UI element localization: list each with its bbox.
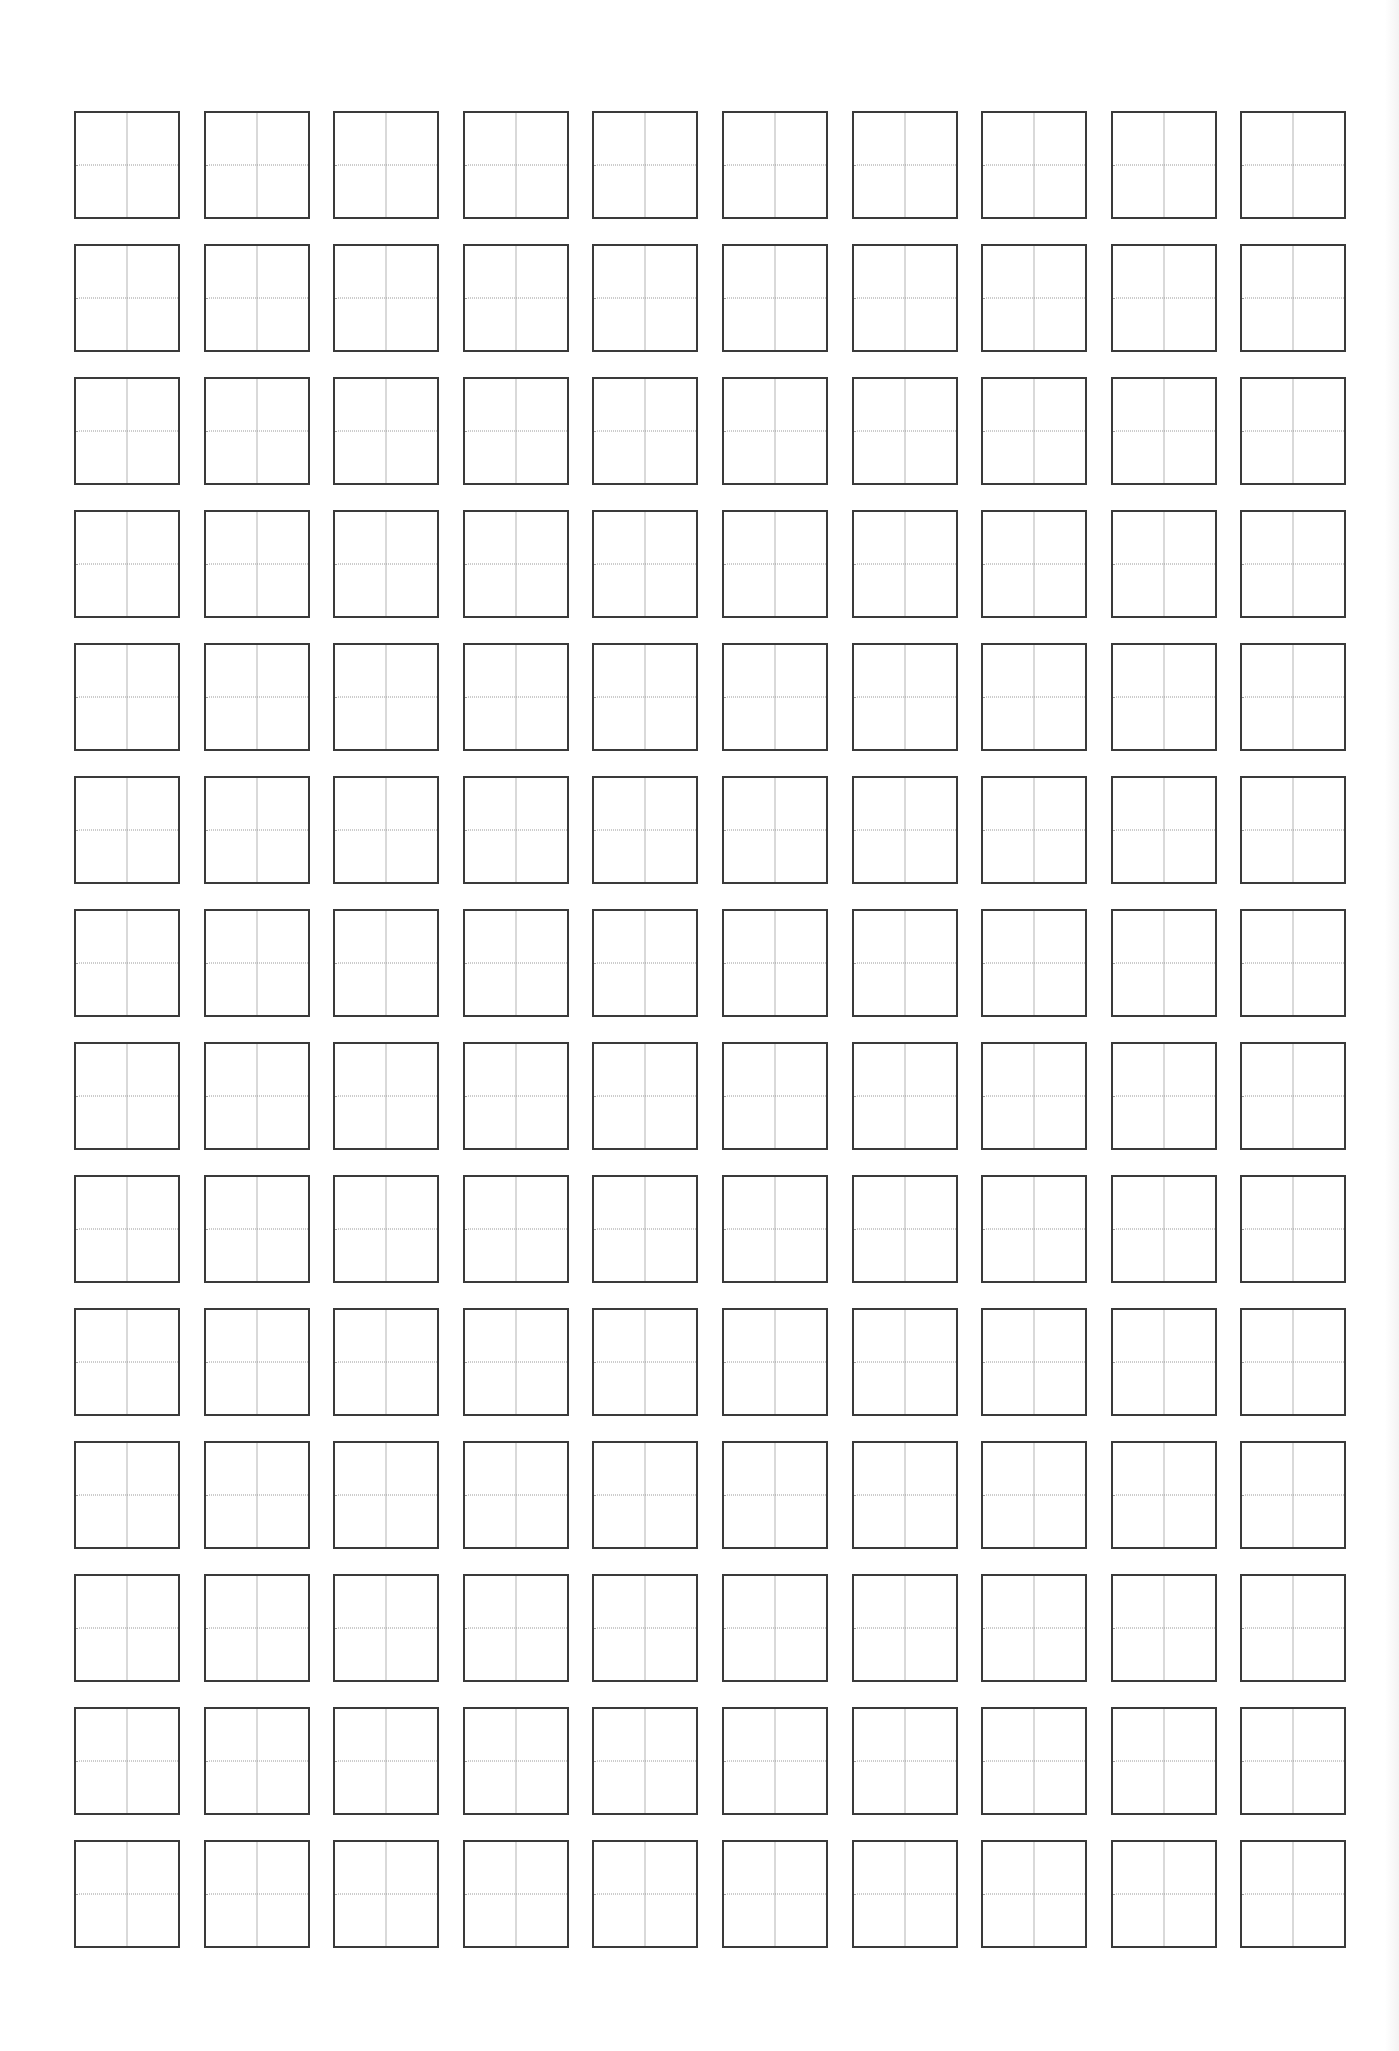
practice-cell-r1-c6[interactable] (722, 111, 828, 219)
practice-cell-r1-c4[interactable] (463, 111, 569, 219)
practice-cell-r9-c2[interactable] (204, 1175, 310, 1283)
practice-cell-r11-c2[interactable] (204, 1441, 310, 1549)
practice-cell-r10-c8[interactable] (981, 1308, 1087, 1416)
practice-cell-r5-c3[interactable] (333, 643, 439, 751)
practice-cell-r1-c1[interactable] (74, 111, 180, 219)
practice-cell-r3-c2[interactable] (204, 377, 310, 485)
practice-cell-r1-c3[interactable] (333, 111, 439, 219)
practice-cell-r14-c5[interactable] (592, 1840, 698, 1948)
practice-cell-r9-c5[interactable] (592, 1175, 698, 1283)
practice-cell-r7-c3[interactable] (333, 909, 439, 1017)
practice-cell-r2-c1[interactable] (74, 244, 180, 352)
practice-cell-r14-c10[interactable] (1240, 1840, 1346, 1948)
practice-cell-r1-c5[interactable] (592, 111, 698, 219)
practice-cell-r3-c9[interactable] (1111, 377, 1217, 485)
practice-cell-r5-c10[interactable] (1240, 643, 1346, 751)
practice-cell-r9-c1[interactable] (74, 1175, 180, 1283)
practice-cell-r13-c5[interactable] (592, 1707, 698, 1815)
practice-cell-r2-c2[interactable] (204, 244, 310, 352)
practice-cell-r4-c6[interactable] (722, 510, 828, 618)
practice-cell-r8-c4[interactable] (463, 1042, 569, 1150)
practice-cell-r8-c7[interactable] (852, 1042, 958, 1150)
practice-cell-r5-c1[interactable] (74, 643, 180, 751)
practice-cell-r8-c10[interactable] (1240, 1042, 1346, 1150)
practice-cell-r2-c8[interactable] (981, 244, 1087, 352)
practice-cell-r12-c7[interactable] (852, 1574, 958, 1682)
practice-cell-r1-c10[interactable] (1240, 111, 1346, 219)
practice-cell-r3-c5[interactable] (592, 377, 698, 485)
practice-cell-r6-c3[interactable] (333, 776, 439, 884)
practice-cell-r6-c1[interactable] (74, 776, 180, 884)
practice-cell-r11-c7[interactable] (852, 1441, 958, 1549)
practice-cell-r4-c9[interactable] (1111, 510, 1217, 618)
practice-cell-r7-c6[interactable] (722, 909, 828, 1017)
practice-cell-r2-c4[interactable] (463, 244, 569, 352)
practice-cell-r3-c4[interactable] (463, 377, 569, 485)
practice-cell-r11-c1[interactable] (74, 1441, 180, 1549)
practice-cell-r7-c9[interactable] (1111, 909, 1217, 1017)
practice-cell-r10-c3[interactable] (333, 1308, 439, 1416)
practice-cell-r11-c6[interactable] (722, 1441, 828, 1549)
practice-cell-r1-c7[interactable] (852, 111, 958, 219)
practice-cell-r10-c2[interactable] (204, 1308, 310, 1416)
practice-cell-r6-c10[interactable] (1240, 776, 1346, 884)
practice-cell-r4-c2[interactable] (204, 510, 310, 618)
practice-cell-r4-c1[interactable] (74, 510, 180, 618)
practice-cell-r12-c6[interactable] (722, 1574, 828, 1682)
practice-cell-r8-c9[interactable] (1111, 1042, 1217, 1150)
practice-cell-r7-c10[interactable] (1240, 909, 1346, 1017)
practice-cell-r11-c5[interactable] (592, 1441, 698, 1549)
practice-cell-r3-c6[interactable] (722, 377, 828, 485)
practice-cell-r9-c8[interactable] (981, 1175, 1087, 1283)
practice-cell-r10-c5[interactable] (592, 1308, 698, 1416)
practice-cell-r10-c9[interactable] (1111, 1308, 1217, 1416)
practice-cell-r9-c10[interactable] (1240, 1175, 1346, 1283)
practice-cell-r5-c5[interactable] (592, 643, 698, 751)
practice-cell-r2-c6[interactable] (722, 244, 828, 352)
practice-cell-r11-c9[interactable] (1111, 1441, 1217, 1549)
practice-cell-r12-c8[interactable] (981, 1574, 1087, 1682)
practice-cell-r13-c8[interactable] (981, 1707, 1087, 1815)
practice-cell-r10-c4[interactable] (463, 1308, 569, 1416)
practice-cell-r8-c3[interactable] (333, 1042, 439, 1150)
practice-cell-r10-c7[interactable] (852, 1308, 958, 1416)
practice-cell-r7-c1[interactable] (74, 909, 180, 1017)
practice-cell-r8-c1[interactable] (74, 1042, 180, 1150)
practice-cell-r14-c7[interactable] (852, 1840, 958, 1948)
practice-cell-r6-c9[interactable] (1111, 776, 1217, 884)
practice-cell-r12-c1[interactable] (74, 1574, 180, 1682)
practice-cell-r6-c6[interactable] (722, 776, 828, 884)
practice-cell-r9-c4[interactable] (463, 1175, 569, 1283)
practice-cell-r12-c5[interactable] (592, 1574, 698, 1682)
practice-cell-r7-c4[interactable] (463, 909, 569, 1017)
practice-cell-r12-c10[interactable] (1240, 1574, 1346, 1682)
practice-cell-r13-c7[interactable] (852, 1707, 958, 1815)
practice-cell-r13-c6[interactable] (722, 1707, 828, 1815)
practice-cell-r12-c9[interactable] (1111, 1574, 1217, 1682)
practice-cell-r13-c2[interactable] (204, 1707, 310, 1815)
practice-cell-r2-c10[interactable] (1240, 244, 1346, 352)
practice-cell-r6-c7[interactable] (852, 776, 958, 884)
practice-cell-r1-c2[interactable] (204, 111, 310, 219)
practice-cell-r4-c4[interactable] (463, 510, 569, 618)
practice-cell-r12-c2[interactable] (204, 1574, 310, 1682)
practice-cell-r2-c7[interactable] (852, 244, 958, 352)
practice-cell-r14-c3[interactable] (333, 1840, 439, 1948)
practice-cell-r4-c3[interactable] (333, 510, 439, 618)
practice-cell-r14-c9[interactable] (1111, 1840, 1217, 1948)
practice-cell-r14-c6[interactable] (722, 1840, 828, 1948)
practice-cell-r5-c4[interactable] (463, 643, 569, 751)
practice-cell-r6-c4[interactable] (463, 776, 569, 884)
practice-cell-r3-c10[interactable] (1240, 377, 1346, 485)
practice-cell-r4-c10[interactable] (1240, 510, 1346, 618)
practice-cell-r6-c8[interactable] (981, 776, 1087, 884)
practice-cell-r11-c4[interactable] (463, 1441, 569, 1549)
practice-cell-r8-c2[interactable] (204, 1042, 310, 1150)
practice-cell-r4-c7[interactable] (852, 510, 958, 618)
practice-cell-r14-c2[interactable] (204, 1840, 310, 1948)
practice-cell-r9-c3[interactable] (333, 1175, 439, 1283)
practice-cell-r13-c3[interactable] (333, 1707, 439, 1815)
practice-cell-r7-c2[interactable] (204, 909, 310, 1017)
practice-cell-r14-c4[interactable] (463, 1840, 569, 1948)
practice-cell-r12-c3[interactable] (333, 1574, 439, 1682)
